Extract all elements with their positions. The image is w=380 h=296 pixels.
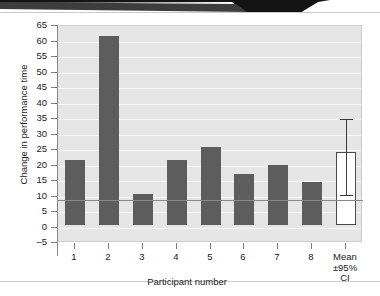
x-axis-tick: [345, 243, 346, 249]
y-axis-tick-label: 0: [42, 222, 47, 232]
y-axis-tick-label: 35: [36, 113, 47, 123]
y-axis-tick-label: 60: [36, 36, 47, 46]
bar: [133, 194, 153, 225]
y-axis-tick-label: 40: [36, 98, 47, 108]
y-axis-tick-label: 65: [36, 20, 47, 30]
error-bar-cap-upper: [340, 119, 353, 120]
y-axis-tick-label: 45: [36, 82, 47, 92]
x-axis-tick: [74, 243, 75, 249]
y-axis-tick: [51, 103, 57, 104]
y-axis-tick: [51, 211, 57, 212]
bar: [201, 147, 221, 225]
y-axis-tick-label: 5: [42, 206, 47, 216]
gridline: [58, 228, 361, 229]
x-axis-tick-label-line: CI: [320, 273, 370, 284]
x-axis-tick: [210, 243, 211, 249]
x-axis-tick: [277, 243, 278, 249]
x-axis-tick: [142, 243, 143, 249]
x-axis-tick: [311, 243, 312, 249]
y-axis-tick: [51, 134, 57, 135]
y-axis-tick-label: 30: [36, 129, 47, 139]
y-axis-tick: [51, 227, 57, 228]
y-axis-tick: [51, 56, 57, 57]
x-axis-tick: [108, 243, 109, 249]
y-axis-line: [57, 25, 58, 256]
y-axis-tick: [51, 242, 57, 243]
y-axis-title: Change in performance time: [18, 40, 29, 210]
y-axis-tick: [51, 41, 57, 42]
banner-divider: [0, 12, 380, 13]
error-bar-line: [346, 119, 347, 195]
y-axis-tick: [51, 165, 57, 166]
y-axis-tick-label: 25: [36, 144, 47, 154]
y-axis-tick: [51, 118, 57, 119]
bar: [167, 160, 187, 225]
y-axis-tick: [51, 196, 57, 197]
y-axis-tick: [51, 25, 57, 26]
x-axis-line: [57, 200, 363, 201]
y-axis-tick: [51, 149, 57, 150]
y-axis-tick-label: 50: [36, 67, 47, 77]
plot-area: [57, 25, 362, 242]
bar: [268, 165, 288, 225]
y-axis-tick: [51, 72, 57, 73]
figure-container: Change in performance time Participant n…: [0, 0, 380, 296]
page-banner: [0, 0, 380, 13]
x-axis-tick: [176, 243, 177, 249]
chart-frame: Change in performance time Participant n…: [0, 14, 380, 282]
bar: [99, 36, 119, 225]
y-axis-tick: [51, 180, 57, 181]
x-axis-tick: [243, 243, 244, 249]
y-axis-tick-label: –5: [36, 237, 47, 247]
y-axis-tick-label: 55: [36, 51, 47, 61]
bar: [302, 182, 322, 225]
y-axis-tick-label: 15: [36, 175, 47, 185]
y-axis-tick-label: 10: [36, 191, 47, 201]
y-axis-tick-label: 20: [36, 160, 47, 170]
bar: [65, 160, 85, 225]
y-axis-tick: [51, 87, 57, 88]
x-axis-tick-label: Mean±95%CI: [320, 252, 370, 284]
error-bar-cap-lower: [340, 195, 353, 196]
x-axis-title: Participant number: [57, 276, 317, 287]
